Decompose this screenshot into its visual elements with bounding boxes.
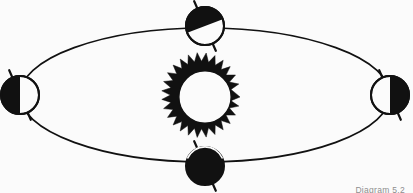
sun-core	[179, 71, 231, 123]
earth-bottom	[186, 141, 224, 191]
earth-left-shadow	[0, 74, 20, 116]
figure-caption: Diagram 5.2	[355, 186, 405, 193]
diagram-page: Diagram 5.2	[0, 0, 413, 193]
sun	[162, 53, 240, 138]
orbit-diagram	[0, 0, 413, 193]
earth-right	[371, 70, 413, 120]
earth-top	[171, 0, 230, 51]
earth-left	[0, 70, 39, 120]
